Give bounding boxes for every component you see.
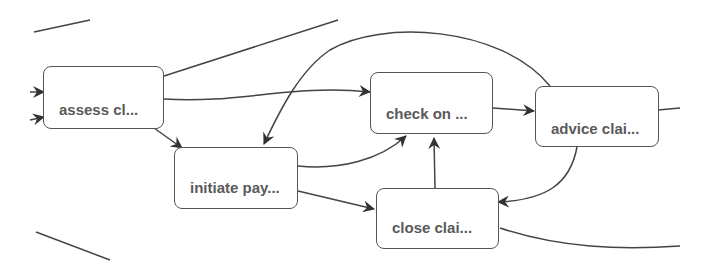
node-label: assess cl...	[59, 101, 138, 118]
edge-check-advice	[493, 108, 534, 111]
edge-fragment	[34, 20, 90, 32]
node-label: check on ...	[386, 105, 468, 122]
node-label: close clai...	[392, 219, 472, 236]
edge-initiate-check	[298, 136, 406, 167]
edge-fragment	[36, 232, 110, 260]
edge-fragment	[164, 20, 338, 76]
edge-assess-check	[164, 90, 370, 100]
edge-advice-close	[498, 147, 577, 202]
node-assess-claim[interactable]: assess cl...	[43, 66, 164, 129]
node-initiate-payment[interactable]: initiate pay...	[174, 147, 298, 209]
node-advice-claim[interactable]: advice clai...	[535, 86, 659, 147]
edge-close-check	[434, 138, 435, 188]
edge-assess-initiate	[154, 128, 182, 148]
node-check-on[interactable]: check on ...	[370, 72, 493, 134]
node-close-claim[interactable]: close clai...	[376, 188, 499, 249]
edge-fragment	[658, 108, 680, 110]
edge-initiate-close	[298, 191, 374, 209]
node-label: advice clai...	[551, 120, 639, 137]
edge-fragment	[500, 228, 680, 248]
node-label: initiate pay...	[190, 179, 280, 196]
edge-incoming	[30, 117, 44, 120]
